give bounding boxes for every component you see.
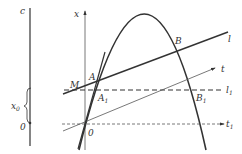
- point-B1-label: B1: [195, 93, 206, 104]
- x0-label: x0: [11, 101, 20, 112]
- point-O-label: 0: [88, 128, 94, 138]
- x-axis-label: x: [74, 9, 79, 19]
- left-origin-label: 0: [20, 122, 26, 132]
- line-l1-label: l1: [226, 85, 233, 96]
- left-top-label: c: [20, 6, 25, 16]
- space-time-diagram: c 0 x0 x M A A1 B B1 0 l t l1 t1: [0, 0, 242, 154]
- line-l-label: l: [228, 34, 231, 44]
- parabola-curve: [79, 14, 206, 150]
- line-t1-label: t1: [226, 119, 233, 130]
- point-M-label: M: [69, 80, 80, 90]
- diagram-canvas: c 0 x0 x M A A1 B B1 0 l t l1 t1: [0, 0, 242, 154]
- point-A1-label: A1: [97, 93, 108, 104]
- line-l: [63, 32, 228, 94]
- line-t-label: t: [221, 64, 225, 74]
- point-B-label: B: [174, 36, 182, 46]
- point-A-label: A: [88, 72, 96, 82]
